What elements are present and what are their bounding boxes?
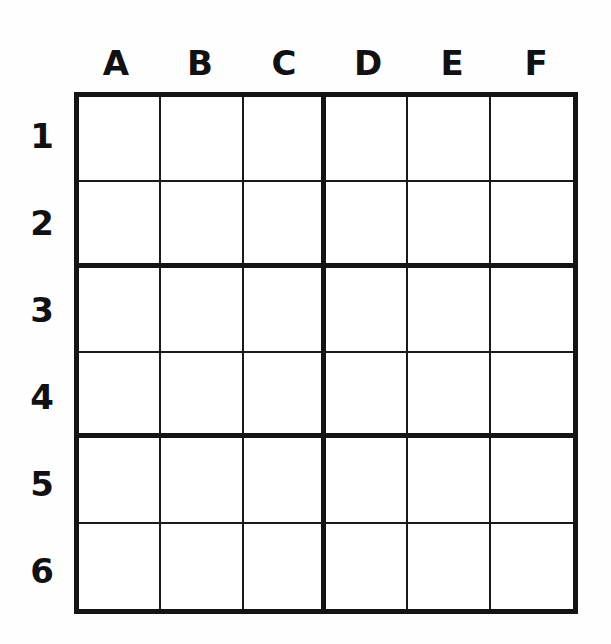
cell-D6[interactable] — [326, 524, 408, 609]
cell-F4[interactable] — [491, 353, 573, 438]
cell-D4[interactable] — [326, 353, 408, 438]
cell-A2[interactable] — [79, 182, 161, 267]
cell-D2[interactable] — [326, 182, 408, 267]
puzzle-grid — [74, 92, 578, 614]
cell-B6[interactable] — [161, 524, 243, 609]
cell-C2[interactable] — [244, 182, 326, 267]
row-label-column: 1 2 3 4 5 6 — [16, 92, 68, 614]
cell-B5[interactable] — [161, 438, 243, 523]
cell-B2[interactable] — [161, 182, 243, 267]
column-header-row: A B C D E F — [74, 36, 578, 80]
column-header-a: A — [74, 36, 158, 80]
column-header-f: F — [494, 36, 578, 80]
row-label-6: 6 — [16, 527, 68, 614]
row-label-3: 3 — [16, 266, 68, 353]
cell-C6[interactable] — [244, 524, 326, 609]
grid-page: A B C D E F 1 2 3 4 5 6 — [0, 0, 611, 644]
cell-C5[interactable] — [244, 438, 326, 523]
cell-F6[interactable] — [491, 524, 573, 609]
cell-B1[interactable] — [161, 97, 243, 182]
cell-A6[interactable] — [79, 524, 161, 609]
cell-E3[interactable] — [408, 268, 490, 353]
column-header-b: B — [158, 36, 242, 80]
cell-A4[interactable] — [79, 353, 161, 438]
cell-F2[interactable] — [491, 182, 573, 267]
column-header-e: E — [410, 36, 494, 80]
cell-F1[interactable] — [491, 97, 573, 182]
cell-A5[interactable] — [79, 438, 161, 523]
cell-A3[interactable] — [79, 268, 161, 353]
cell-D3[interactable] — [326, 268, 408, 353]
cell-F3[interactable] — [491, 268, 573, 353]
cell-F5[interactable] — [491, 438, 573, 523]
cell-E2[interactable] — [408, 182, 490, 267]
cell-D5[interactable] — [326, 438, 408, 523]
cell-E1[interactable] — [408, 97, 490, 182]
cell-C3[interactable] — [244, 268, 326, 353]
cell-B3[interactable] — [161, 268, 243, 353]
row-label-4: 4 — [16, 353, 68, 440]
cell-D1[interactable] — [326, 97, 408, 182]
row-label-5: 5 — [16, 440, 68, 527]
row-label-2: 2 — [16, 179, 68, 266]
column-header-d: D — [326, 36, 410, 80]
column-header-c: C — [242, 36, 326, 80]
cell-E5[interactable] — [408, 438, 490, 523]
cell-A1[interactable] — [79, 97, 161, 182]
cell-E4[interactable] — [408, 353, 490, 438]
cell-C4[interactable] — [244, 353, 326, 438]
cell-C1[interactable] — [244, 97, 326, 182]
cell-B4[interactable] — [161, 353, 243, 438]
row-label-1: 1 — [16, 92, 68, 179]
cell-E6[interactable] — [408, 524, 490, 609]
